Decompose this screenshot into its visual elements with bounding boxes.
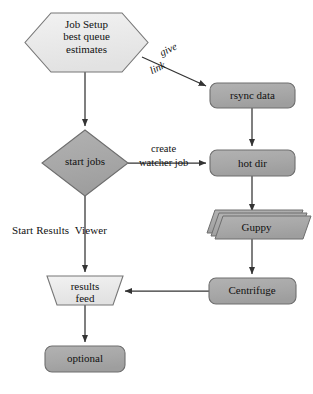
edge-label-watcher-job: watcher job xyxy=(139,157,188,169)
node-hot-dir[interactable] xyxy=(210,150,295,176)
node-job-setup[interactable] xyxy=(25,13,148,72)
flowchart-canvas xyxy=(0,0,313,394)
edge-label-start-results-viewer: Start Results Viewer xyxy=(12,224,107,236)
edge-label-create: create xyxy=(151,143,176,155)
node-rsync-data[interactable] xyxy=(210,83,295,108)
node-start-jobs[interactable] xyxy=(42,130,128,196)
node-guppy[interactable] xyxy=(207,210,311,239)
node-results-feed[interactable] xyxy=(47,276,123,305)
node-optional[interactable] xyxy=(45,346,125,372)
node-centrifuge[interactable] xyxy=(209,278,296,304)
